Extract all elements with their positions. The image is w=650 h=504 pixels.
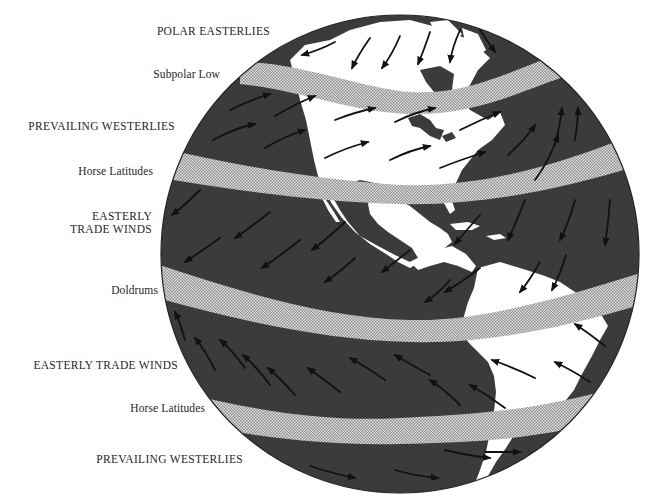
globe-diagram [0, 0, 650, 504]
